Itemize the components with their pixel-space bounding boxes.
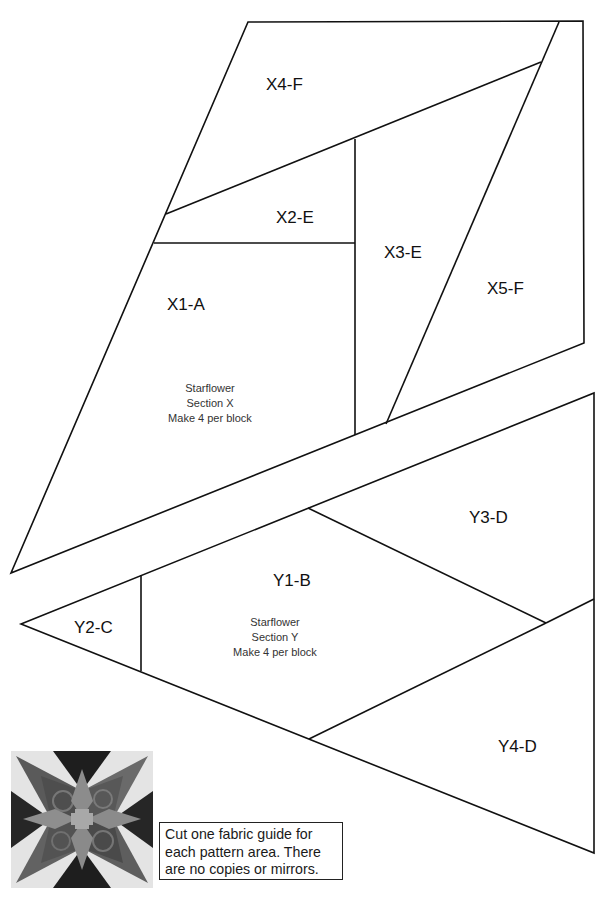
piece-label-x4-f: X4-F: [266, 75, 303, 94]
piece-label-y3-d: Y3-D: [469, 508, 508, 527]
instruction-note-line-3: are no copies or mirrors.: [165, 861, 342, 879]
section-y-instruction: Make 4 per block: [233, 646, 317, 658]
piece-label-x5-f: X5-F: [487, 279, 524, 298]
section-x-instruction: Make 4 per block: [168, 412, 252, 424]
piece-label-x2-e: X2-E: [276, 208, 314, 227]
instruction-note-line-1: Cut one fabric guide for: [165, 826, 342, 844]
quilt-block-preview-image: [11, 751, 153, 888]
piece-label-x1-a: X1-A: [167, 295, 205, 314]
piece-label-y1-b: Y1-B: [273, 571, 311, 590]
piece-label-y2-c: Y2-C: [74, 618, 113, 637]
instruction-note-box: Cut one fabric guide for each pattern ar…: [159, 822, 343, 880]
section-x-name: Starflower: [185, 382, 235, 394]
instruction-note-line-2: each pattern area. There: [165, 844, 342, 862]
section-x-title: Section X: [186, 397, 234, 409]
piece-label-y4-d: Y4-D: [498, 737, 537, 756]
section-y-title: Section Y: [252, 631, 300, 643]
piece-label-x3-e: X3-E: [384, 243, 422, 262]
section-y-name: Starflower: [250, 616, 300, 628]
